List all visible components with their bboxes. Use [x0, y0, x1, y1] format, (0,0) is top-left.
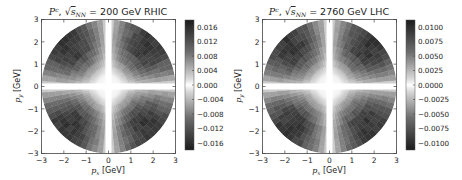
y-tick-label: −3 — [27, 149, 38, 158]
y-tick-label: 3 — [255, 15, 260, 24]
colorbar-tick-label: 0.016 — [197, 23, 218, 32]
colorbar-tick-label: 0.000 — [197, 81, 218, 90]
y-tick-label: 2 — [255, 38, 260, 47]
colorbar-tick-label: 0.0075 — [418, 37, 443, 46]
x-tick-label: 0 — [327, 156, 332, 165]
y-tick-label: −3 — [248, 149, 259, 158]
x-axis-label: px [GeV] — [312, 166, 346, 176]
colorbar-ticks: 0.01000.00750.00500.00250.0000−0.0025−0.… — [413, 23, 450, 148]
x-tick-label: 1 — [128, 156, 133, 165]
colorbar-tick-label: −0.0075 — [418, 124, 449, 133]
x-tick-label: −2 — [58, 156, 69, 165]
colorbar-tick-label: 0.0050 — [418, 52, 444, 61]
colorbar-tick-label: 0.012 — [197, 37, 218, 46]
colorbar-tick-label: −0.0100 — [418, 139, 450, 148]
colorbar-tick-label: 0.0000 — [418, 81, 444, 90]
plot-title: Pc, √sNN = 2760 GeV LHC — [268, 6, 390, 18]
y-tick-label: −1 — [248, 105, 259, 114]
y-tick-label: −2 — [248, 127, 259, 136]
y-tick-label: −2 — [27, 127, 38, 136]
y-tick-label: 3 — [34, 15, 39, 24]
center-glow — [300, 57, 360, 117]
x-tick-label: −1 — [302, 156, 313, 165]
x-axis-label: px [GeV] — [91, 166, 125, 176]
y-tick-label: 0 — [34, 82, 39, 91]
y-tick-label: −1 — [27, 105, 38, 114]
y-tick-label: 0 — [255, 82, 260, 91]
colorbar-tick-label: −0.016 — [197, 139, 224, 148]
x-tick-label: 1 — [349, 156, 354, 165]
y-axis-label: py [GeV] — [13, 69, 24, 103]
plot-title: Pc, √sNN = 200 GeV RHIC — [48, 6, 168, 18]
colorbar-tick-label: 0.0100 — [418, 23, 444, 32]
x-tick-label: 0 — [106, 156, 111, 165]
colorbar-tick-label: −0.008 — [197, 110, 224, 119]
colorbar-tick-label: 0.008 — [197, 52, 218, 61]
colorbar-tick-label: 0.004 — [197, 66, 218, 75]
colorbar-tick-label: −0.012 — [197, 124, 224, 133]
x-tick-label: 3 — [173, 156, 178, 165]
center-glow — [79, 57, 139, 117]
chart-lhc: −3−2−101233210−1−2−3 Pc, √sNN = 2760 GeV… — [222, 0, 462, 180]
colorbar-tick-label: 0.0025 — [418, 66, 443, 75]
x-tick-label: 2 — [151, 156, 156, 165]
colorbar-tick-label: −0.0050 — [418, 110, 450, 119]
chart-rhic: −3−2−101233210−1−2−3 Pc, √sNN = 200 GeV … — [0, 0, 231, 180]
y-axis-label: py [GeV] — [234, 69, 245, 103]
colorbar-tick-label: −0.004 — [197, 95, 224, 104]
panel-rhic: −3−2−101233210−1−2−3 Pc, √sNN = 200 GeV … — [0, 0, 231, 180]
x-tick-label: 3 — [394, 156, 399, 165]
x-tick-label: 2 — [372, 156, 377, 165]
panel-lhc: −3−2−101233210−1−2−3 Pc, √sNN = 2760 GeV… — [222, 0, 453, 180]
colorbar-ticks: 0.0160.0120.0080.0040.000−0.004−0.008−0.… — [192, 23, 224, 148]
colorbar-tick-label: −0.0025 — [418, 95, 449, 104]
x-tick-label: −2 — [279, 156, 290, 165]
y-tick-label: 1 — [34, 60, 39, 69]
y-tick-label: 1 — [255, 60, 260, 69]
x-tick-label: −1 — [81, 156, 92, 165]
y-tick-label: 2 — [34, 38, 39, 47]
